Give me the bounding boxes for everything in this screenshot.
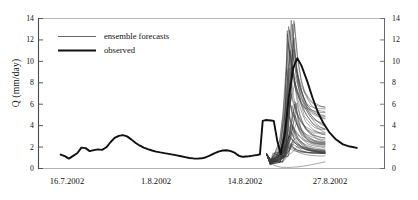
y-tick-label-right-14: 14 (392, 14, 400, 23)
y-tick-label-right-4: 4 (392, 121, 396, 130)
y-tick-label-left-0: 0 (16, 164, 34, 173)
y-axis-ticks-right (380, 19, 385, 169)
x-tick-label-3: 14.8.2002 (205, 176, 285, 186)
y-tick-label-left-10: 10 (16, 57, 34, 66)
legend-label-observed: observed (104, 45, 135, 55)
ensemble-forecast-lines (267, 20, 325, 167)
y-tick-label-right-10: 10 (392, 57, 400, 66)
y-tick-label-right-2: 2 (392, 143, 396, 152)
x-tick-label-2: 1.8.2002 (116, 176, 196, 186)
plot-canvas (0, 0, 418, 200)
y-tick-label-left-12: 12 (16, 35, 34, 44)
x-tick-label-1: 16.7.2002 (27, 176, 107, 186)
y-tick-label-left-8: 8 (16, 78, 34, 87)
y-tick-label-right-0: 0 (392, 164, 396, 173)
y-tick-label-left-6: 6 (16, 100, 34, 109)
ensemble-member-line (267, 66, 325, 161)
y-tick-label-left-2: 2 (16, 143, 34, 152)
observed-series-line (61, 58, 357, 159)
y-tick-label-right-12: 12 (392, 35, 400, 44)
y-tick-label-left-4: 4 (16, 121, 34, 130)
y-tick-label-left-14: 14 (16, 14, 34, 23)
y-tick-label-right-8: 8 (392, 78, 396, 87)
x-tick-label-4: 27.8.2002 (290, 176, 370, 186)
legend-label-ensemble-forecasts: ensemble forecasts (104, 31, 169, 41)
y-axis-ticks-left (39, 19, 44, 169)
chart-figure: Q (mm/day) ensemble forecasts observed 1… (0, 0, 418, 200)
y-tick-label-right-6: 6 (392, 100, 396, 109)
ensemble-member-line (267, 69, 325, 162)
